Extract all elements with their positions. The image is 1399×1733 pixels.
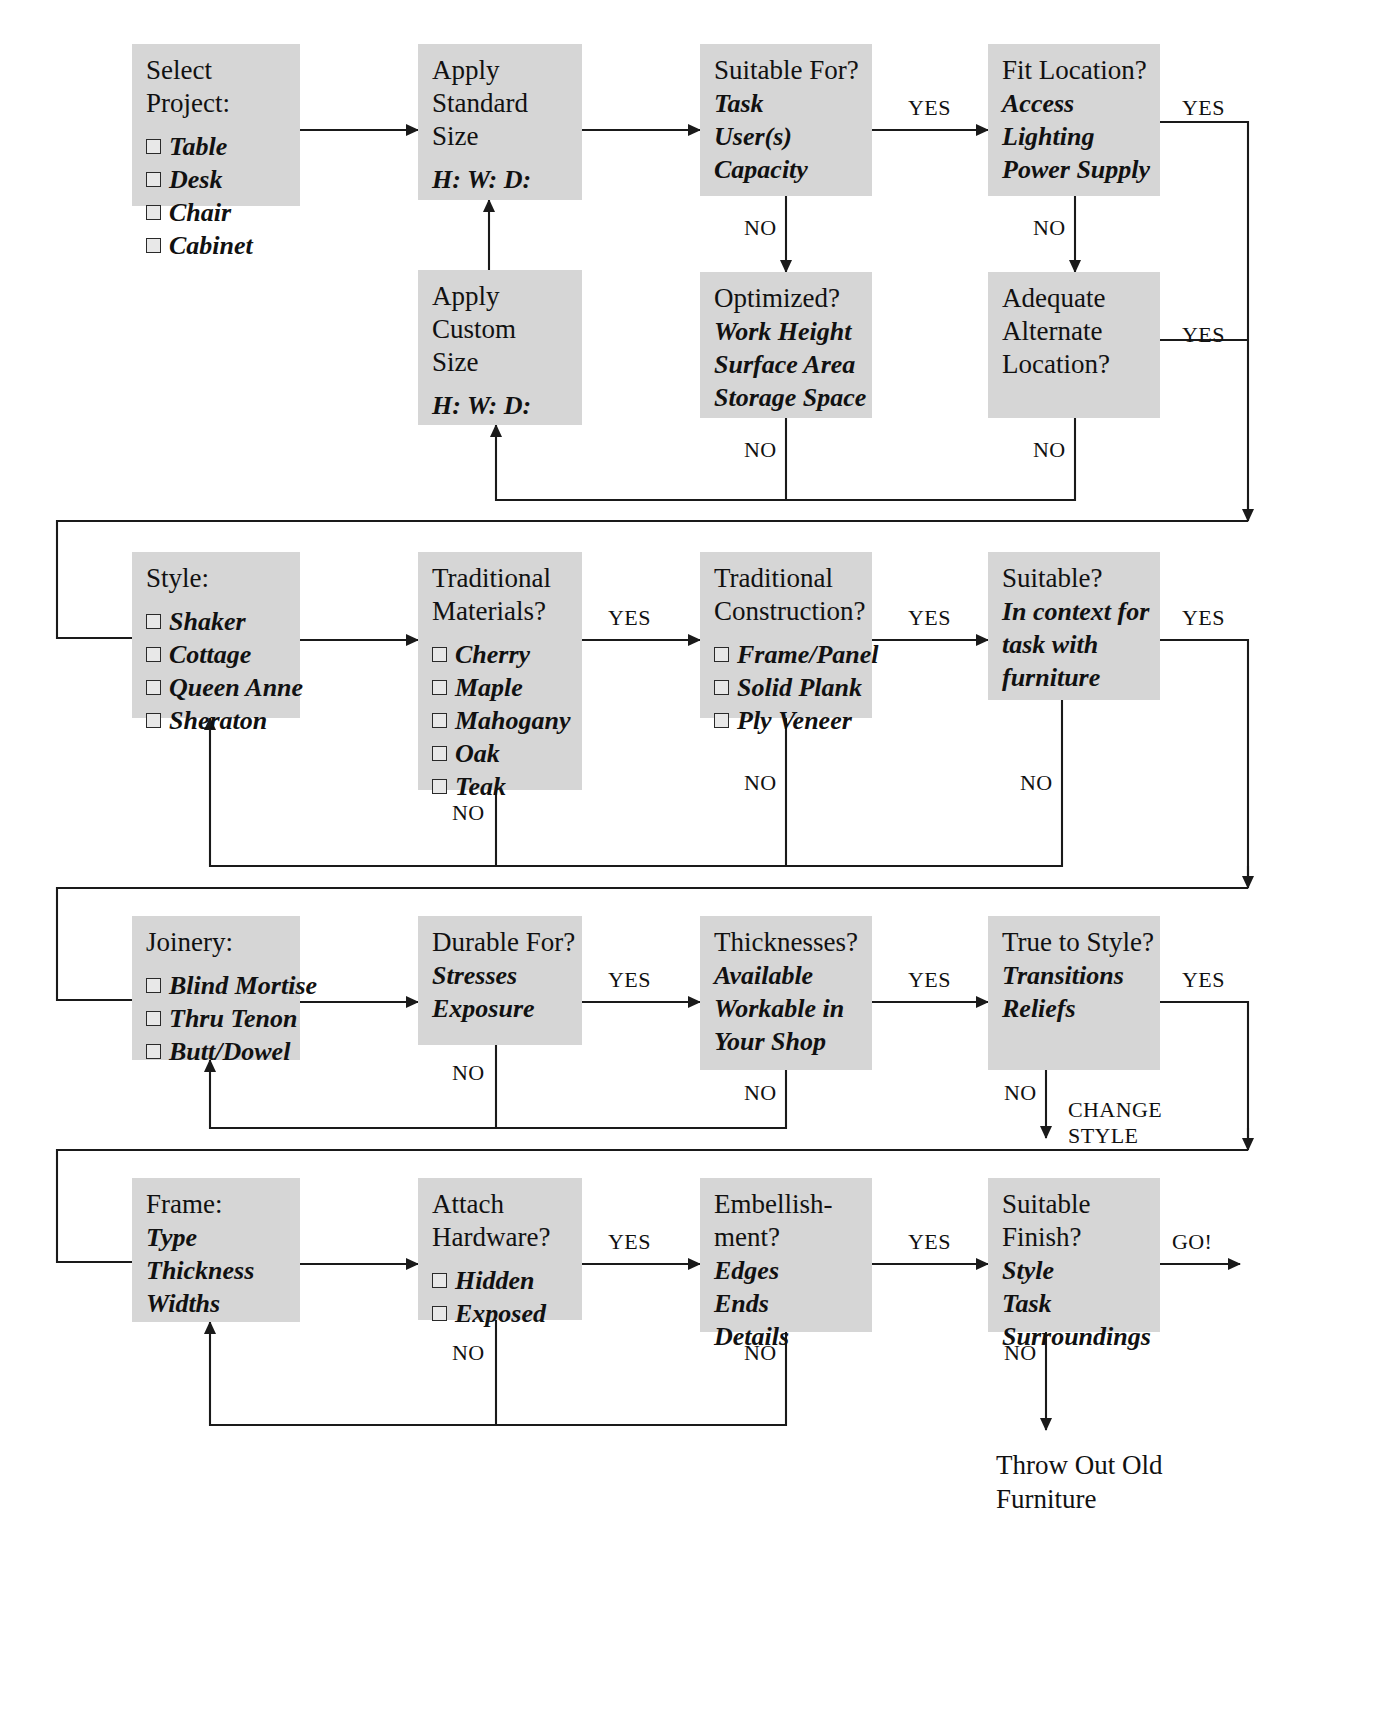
checkbox-solid-plank[interactable]: Solid Plank: [714, 671, 872, 704]
edge-label-no-finish: NO: [1004, 1340, 1037, 1366]
box-optimized[interactable]: Optimized? Work Height Surface Area Stor…: [700, 272, 872, 418]
box-suitable-context-head: Suitable?: [1002, 562, 1160, 595]
criterion-power-supply: Power Supply: [1002, 153, 1160, 186]
checkbox-blind-mortise[interactable]: Blind Mortise: [146, 969, 300, 1002]
checkbox-cabinet[interactable]: Cabinet: [146, 229, 300, 262]
checkbox-icon[interactable]: [146, 647, 161, 662]
box-traditional-construction-head: Traditional Construction?: [714, 562, 872, 628]
criterion-storage-space: Storage Space: [714, 381, 872, 414]
criterion-ends: Ends: [714, 1287, 872, 1320]
checkbox-icon[interactable]: [432, 1273, 447, 1288]
box-apply-custom-size[interactable]: Apply Custom Size H: W: D:: [418, 270, 582, 425]
checkbox-icon[interactable]: [146, 1044, 161, 1059]
checkbox-maple[interactable]: Maple: [432, 671, 582, 704]
checkbox-icon[interactable]: [714, 647, 729, 662]
box-traditional-materials[interactable]: Traditional Materials? Cherry Maple Maho…: [418, 552, 582, 790]
checkbox-teak[interactable]: Teak: [432, 770, 582, 803]
edge-label-yes-construction: YES: [908, 605, 951, 631]
box-attach-hardware[interactable]: Attach Hardware? Hidden Exposed: [418, 1178, 582, 1320]
checkbox-icon[interactable]: [714, 680, 729, 695]
box-thicknesses-head: Thicknesses?: [714, 926, 872, 959]
box-true-to-style[interactable]: True to Style? Transitions Reliefs: [988, 916, 1160, 1070]
criterion-widths: Widths: [146, 1287, 300, 1320]
edge-label-yes-adequate: YES: [1182, 322, 1225, 348]
checkbox-cherry[interactable]: Cherry: [432, 638, 582, 671]
box-suitable-for[interactable]: Suitable For? Task User(s) Capacity: [700, 44, 872, 196]
checkbox-desk[interactable]: Desk: [146, 163, 300, 196]
box-select-project-head: Select Project:: [146, 54, 300, 120]
checkbox-icon[interactable]: [432, 779, 447, 794]
box-traditional-construction[interactable]: Traditional Construction? Frame/Panel So…: [700, 552, 872, 718]
box-true-to-style-head: True to Style?: [1002, 926, 1160, 959]
criterion-surface-area: Surface Area: [714, 348, 872, 381]
checkbox-icon[interactable]: [432, 680, 447, 695]
checkbox-butt-dowel[interactable]: Butt/Dowel: [146, 1035, 300, 1068]
checkbox-thru-tenon[interactable]: Thru Tenon: [146, 1002, 300, 1035]
checkbox-exposed[interactable]: Exposed: [432, 1297, 582, 1330]
box-embellishment[interactable]: Embellish- ment? Edges Ends Details: [700, 1178, 872, 1332]
criterion-thickness: Thickness: [146, 1254, 300, 1287]
checkbox-icon[interactable]: [146, 978, 161, 993]
edge-label-yes-materials: YES: [608, 605, 651, 631]
checkbox-shaker[interactable]: Shaker: [146, 605, 300, 638]
checkbox-icon[interactable]: [146, 205, 161, 220]
edge-label-no-thickness: NO: [744, 1080, 777, 1106]
checkbox-chair[interactable]: Chair: [146, 196, 300, 229]
checkbox-icon[interactable]: [432, 713, 447, 728]
box-durable-for[interactable]: Durable For? Stresses Exposure: [418, 916, 582, 1045]
checkbox-icon[interactable]: [714, 713, 729, 728]
edge-label-yes-embellish: YES: [908, 1229, 951, 1255]
box-joinery[interactable]: Joinery: Blind Mortise Thru Tenon Butt/D…: [132, 916, 300, 1060]
checkbox-oak[interactable]: Oak: [432, 737, 582, 770]
checkbox-sheraton[interactable]: Sheraton: [146, 704, 300, 737]
checkbox-icon[interactable]: [146, 713, 161, 728]
box-embellishment-head: Embellish- ment?: [714, 1188, 872, 1254]
checkbox-mahogany[interactable]: Mahogany: [432, 704, 582, 737]
box-thicknesses[interactable]: Thicknesses? Available Workable in Your …: [700, 916, 872, 1070]
box-apply-standard-size[interactable]: Apply Standard Size H: W: D:: [418, 44, 582, 200]
checkbox-table[interactable]: Table: [146, 130, 300, 163]
checkbox-icon[interactable]: [432, 1306, 447, 1321]
box-suitable-context[interactable]: Suitable? In context for task with furni…: [988, 552, 1160, 700]
box-style[interactable]: Style: Shaker Cottage Queen Anne Sherato…: [132, 552, 300, 718]
checkbox-icon[interactable]: [146, 680, 161, 695]
criterion-capacity: Capacity: [714, 153, 872, 186]
checkbox-icon[interactable]: [432, 647, 447, 662]
flowchart-canvas: Fit Location --> Optimized --> Adequate …: [0, 0, 1399, 1733]
criterion-style: Style: [1002, 1254, 1160, 1287]
checkbox-cottage[interactable]: Cottage: [146, 638, 300, 671]
box-suitable-finish[interactable]: Suitable Finish? Style Task Surroundings: [988, 1178, 1160, 1332]
terminal-throw-out-old-furniture: Throw Out Old Furniture: [996, 1448, 1326, 1516]
checkbox-icon[interactable]: [146, 614, 161, 629]
checkbox-hidden[interactable]: Hidden: [432, 1264, 582, 1297]
edge-label-yes-true-style: YES: [1182, 967, 1225, 993]
edge-label-no-fit: NO: [1033, 215, 1066, 241]
edge-label-no-suitable-ctx: NO: [1020, 770, 1053, 796]
edge-label-yes-suitable-ctx: YES: [1182, 605, 1225, 631]
criterion-users: User(s): [714, 120, 872, 153]
checkbox-icon[interactable]: [146, 238, 161, 253]
edge-label-yes-durable: YES: [608, 967, 651, 993]
box-apply-custom-size-head: Apply Custom Size: [432, 280, 582, 379]
checkbox-icon[interactable]: [432, 746, 447, 761]
box-adequate-alternate-location[interactable]: Adequate Alternate Location?: [988, 272, 1160, 418]
box-select-project[interactable]: Select Project: Table Desk Chair Cabinet: [132, 44, 300, 206]
dimension-fields-custom[interactable]: H: W: D:: [432, 389, 582, 422]
edge-label-no-attach: NO: [452, 1340, 485, 1366]
checkbox-icon[interactable]: [146, 172, 161, 187]
criterion-transitions: Transitions: [1002, 959, 1160, 992]
checkbox-ply-veneer[interactable]: Ply Veneer: [714, 704, 872, 737]
criterion-in-context-for: In context for: [1002, 595, 1160, 628]
box-frame[interactable]: Frame: Type Thickness Widths: [132, 1178, 300, 1322]
edge-label-no-adequate: NO: [1033, 437, 1066, 463]
criterion-available: Available: [714, 959, 872, 992]
box-adequate-alternate-location-head: Adequate Alternate Location?: [1002, 282, 1160, 381]
criterion-reliefs: Reliefs: [1002, 992, 1160, 1025]
checkbox-icon[interactable]: [146, 1011, 161, 1026]
dimension-fields-standard[interactable]: H: W: D:: [432, 163, 582, 196]
edge-label-yes-fit-right: YES: [1182, 95, 1225, 121]
checkbox-frame-panel[interactable]: Frame/Panel: [714, 638, 872, 671]
box-fit-location[interactable]: Fit Location? Access Lighting Power Supp…: [988, 44, 1160, 196]
checkbox-icon[interactable]: [146, 139, 161, 154]
checkbox-queen-anne[interactable]: Queen Anne: [146, 671, 300, 704]
